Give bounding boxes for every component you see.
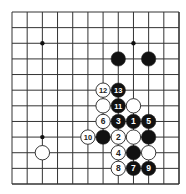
white-stone bbox=[35, 146, 49, 160]
stone-disc bbox=[35, 146, 49, 160]
black-stone bbox=[141, 52, 155, 66]
stone-disc bbox=[141, 52, 155, 66]
go-board: 12131163151024879 bbox=[0, 0, 186, 194]
stone-disc bbox=[126, 130, 140, 144]
white-stone bbox=[126, 99, 140, 113]
star-point bbox=[131, 41, 135, 45]
move-number: 3 bbox=[116, 116, 121, 126]
white-stone: 4 bbox=[111, 146, 125, 160]
move-number: 6 bbox=[101, 116, 106, 126]
move-number: 4 bbox=[116, 148, 121, 158]
move-number: 5 bbox=[146, 116, 151, 126]
move-number: 9 bbox=[146, 163, 151, 173]
white-stone bbox=[96, 99, 110, 113]
white-stone: 10 bbox=[81, 130, 95, 144]
black-stone bbox=[126, 146, 140, 160]
star-point bbox=[40, 135, 44, 139]
white-stone: 12 bbox=[96, 83, 110, 97]
stone-disc bbox=[96, 99, 110, 113]
move-number: 8 bbox=[116, 163, 121, 173]
white-stone: 6 bbox=[96, 114, 110, 128]
black-stone: 11 bbox=[111, 99, 125, 113]
stone-disc bbox=[141, 146, 155, 160]
black-stone bbox=[96, 130, 110, 144]
stone-disc bbox=[126, 146, 140, 160]
move-number: 11 bbox=[114, 102, 122, 111]
stone-disc bbox=[111, 52, 125, 66]
move-number: 12 bbox=[99, 86, 107, 95]
white-stone bbox=[126, 130, 140, 144]
black-stone: 13 bbox=[111, 83, 125, 97]
white-stone: 8 bbox=[111, 161, 125, 175]
stone-disc bbox=[141, 130, 155, 144]
star-point bbox=[40, 41, 44, 45]
stone-disc bbox=[126, 99, 140, 113]
stones-layer: 12131163151024879 bbox=[35, 52, 156, 176]
stone-disc bbox=[96, 130, 110, 144]
black-stone: 5 bbox=[141, 114, 155, 128]
black-stone: 7 bbox=[126, 161, 140, 175]
move-number: 2 bbox=[116, 132, 121, 142]
move-number: 10 bbox=[84, 133, 92, 142]
white-stone bbox=[141, 146, 155, 160]
move-number: 1 bbox=[131, 116, 136, 126]
move-number: 13 bbox=[114, 86, 122, 95]
move-number: 7 bbox=[131, 163, 136, 173]
black-stone: 3 bbox=[111, 114, 125, 128]
black-stone bbox=[111, 52, 125, 66]
black-stone bbox=[141, 130, 155, 144]
black-stone: 9 bbox=[141, 161, 155, 175]
black-stone: 1 bbox=[126, 114, 140, 128]
white-stone: 2 bbox=[111, 130, 125, 144]
